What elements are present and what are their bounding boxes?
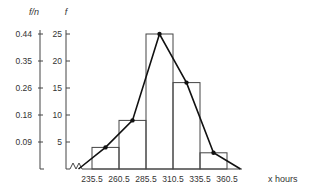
histogram-bar (92, 147, 119, 169)
secondary-y-tick-label: 0.26 (15, 83, 32, 93)
polygon-point (211, 151, 215, 155)
secondary-y-tick-label: 0.18 (15, 110, 32, 120)
x-tick-label: 335.5 (189, 174, 211, 184)
polygon-point (103, 145, 107, 149)
histogram-bar (173, 83, 200, 169)
secondary-y-tick-label: 0.44 (15, 29, 32, 39)
secondary-y-axis: f/n 0.090.180.260.350.44 (15, 7, 44, 169)
x-axis-label: x hours (268, 174, 298, 184)
secondary-y-axis-label: f/n (29, 7, 39, 17)
histogram-chart: f/n 0.090.180.260.350.44 f 510152025 235… (0, 0, 312, 193)
y-tick-label: 10 (53, 110, 63, 120)
x-axis: 235.5260.5285.5310.5335.5360.5 x hours (66, 163, 298, 184)
frequency-polygon (79, 32, 241, 169)
y-tick-label: 15 (53, 83, 63, 93)
histogram-bar (119, 120, 146, 169)
polygon-point (130, 118, 134, 122)
x-tick-label: 260.5 (108, 174, 130, 184)
x-tick-label: 310.5 (162, 174, 184, 184)
histogram-bars (92, 34, 227, 169)
x-tick-label: 285.5 (135, 174, 157, 184)
secondary-y-tick-label: 0.09 (15, 137, 32, 147)
polygon-point (184, 80, 188, 84)
y-axis-label: f (65, 7, 69, 17)
primary-y-axis: f 510152025 (53, 7, 70, 169)
secondary-y-tick-label: 0.35 (15, 56, 32, 66)
polygon-point (157, 32, 161, 36)
y-tick-label: 20 (53, 56, 63, 66)
histogram-bar (146, 34, 173, 169)
x-tick-label: 235.5 (81, 174, 103, 184)
y-tick-label: 25 (53, 29, 63, 39)
histogram-bar (200, 153, 227, 169)
x-tick-label: 360.5 (216, 174, 238, 184)
y-tick-label: 5 (57, 137, 62, 147)
